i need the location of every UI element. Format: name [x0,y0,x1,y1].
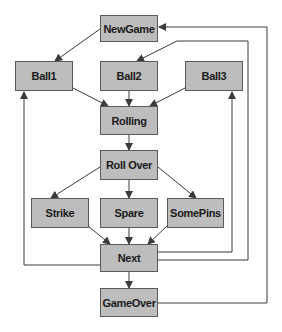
edge-next-ball1 [24,92,100,265]
state-strike: Strike [31,198,89,228]
state-somepins: SomePins [167,198,224,228]
edge-somepins-next [148,226,167,244]
state-gameover: GameOver [100,288,158,317]
state-ball1: Ball1 [15,61,73,91]
state-rollover: Roll Over [100,150,158,180]
edge-strike-next [88,226,110,244]
state-ball3: Ball3 [185,61,243,91]
edge-next-ball3 [158,92,232,252]
edge-newgame-ball1 [55,29,100,61]
state-spare: Spare [100,198,158,228]
state-next: Next [100,244,158,272]
edge-rollover-somepins [158,167,196,198]
state-newgame: NewGame [100,15,158,42]
state-rolling: Rolling [100,106,158,135]
edge-rollover-strike [51,167,100,198]
state-ball2: Ball2 [100,61,158,91]
